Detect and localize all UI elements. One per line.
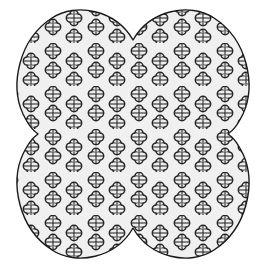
- image-canvas: Decorative four-lobed shape filled with …: [0, 0, 266, 268]
- quatrefoil-artwork: [0, 0, 266, 268]
